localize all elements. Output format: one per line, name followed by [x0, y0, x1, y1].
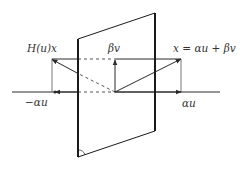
label-neg-alpha-u: −αu — [25, 97, 48, 108]
reflected-vector-arrow — [52, 60, 78, 74]
x-vector-arrow — [115, 59, 181, 92]
label-reflected-vector: H(u)x — [27, 43, 57, 54]
label-beta-v: βv — [108, 43, 120, 54]
householder-reflection-diagram — [0, 0, 250, 169]
neg-alpha-u-point — [54, 91, 57, 94]
reflecting-plane — [78, 13, 155, 157]
label-x-equation: x = αu + βv — [173, 43, 236, 54]
right-angle-mark — [78, 150, 85, 155]
label-alpha-u: αu — [182, 98, 196, 109]
reflected-vector-hidden — [78, 74, 115, 93]
